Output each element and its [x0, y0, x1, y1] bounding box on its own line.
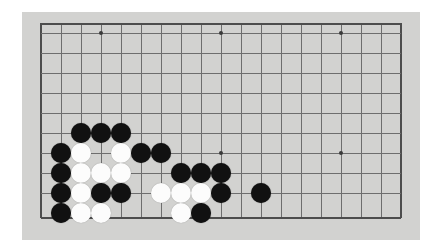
black-stone[interactable]: [211, 163, 231, 183]
black-stone[interactable]: [51, 203, 71, 223]
board-grid-line-horizontal: [41, 73, 401, 74]
white-stone[interactable]: [111, 163, 131, 183]
black-stone[interactable]: [91, 183, 111, 203]
black-stone[interactable]: [131, 143, 151, 163]
board-star-point: [99, 31, 103, 35]
white-stone[interactable]: [71, 203, 91, 223]
board-grid-line-horizontal: [41, 113, 401, 114]
black-stone[interactable]: [51, 183, 71, 203]
black-stone[interactable]: [151, 143, 171, 163]
black-stone[interactable]: [111, 123, 131, 143]
board-edge-top: [41, 23, 401, 25]
black-stone[interactable]: [51, 163, 71, 183]
board-star-point: [339, 31, 343, 35]
black-stone[interactable]: [51, 143, 71, 163]
board-star-point: [219, 31, 223, 35]
black-stone[interactable]: [191, 163, 211, 183]
black-stone[interactable]: [191, 203, 211, 223]
white-stone[interactable]: [91, 163, 111, 183]
white-stone[interactable]: [71, 163, 91, 183]
black-stone[interactable]: [251, 183, 271, 203]
board-star-point: [339, 151, 343, 155]
go-board-panel[interactable]: [22, 12, 420, 240]
white-stone[interactable]: [151, 183, 171, 203]
black-stone[interactable]: [91, 123, 111, 143]
white-stone[interactable]: [91, 203, 111, 223]
board-star-point: [219, 151, 223, 155]
black-stone[interactable]: [171, 163, 191, 183]
black-stone[interactable]: [211, 183, 231, 203]
white-stone[interactable]: [111, 143, 131, 163]
white-stone[interactable]: [71, 183, 91, 203]
white-stone[interactable]: [171, 183, 191, 203]
screenshot-root: [0, 0, 446, 252]
white-stone[interactable]: [171, 203, 191, 223]
black-stone[interactable]: [71, 123, 91, 143]
white-stone[interactable]: [191, 183, 211, 203]
white-stone[interactable]: [71, 143, 91, 163]
board-grid-line-horizontal: [41, 53, 401, 54]
black-stone[interactable]: [111, 183, 131, 203]
go-board-surface[interactable]: [22, 12, 420, 240]
board-grid-line-horizontal: [41, 93, 401, 94]
